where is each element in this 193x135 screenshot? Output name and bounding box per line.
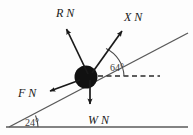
diagram-canvas: R N X N F N W N 64° 24° [0, 0, 193, 135]
force-label-W: W N [88, 113, 110, 127]
force-vector-R [67, 29, 89, 74]
force-label-X: X N [123, 10, 143, 24]
force-label-F: F N [17, 86, 37, 100]
angle-label-64: 64° [110, 62, 124, 73]
angle-label-24: 24° [25, 117, 39, 128]
force-label-R: R N [55, 6, 75, 20]
force-vector-F [50, 80, 80, 91]
free-body-diagram: R N X N F N W N 64° 24° [0, 0, 193, 135]
